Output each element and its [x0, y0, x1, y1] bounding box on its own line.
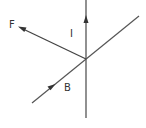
field-label: B — [64, 83, 71, 93]
force-line — [22, 29, 86, 60]
force-label: F — [9, 20, 15, 30]
vector-diagram — [0, 0, 146, 128]
current-label: I — [70, 29, 73, 39]
force-arrowhead-icon — [18, 27, 27, 33]
current-arrowhead-icon — [84, 15, 89, 23]
